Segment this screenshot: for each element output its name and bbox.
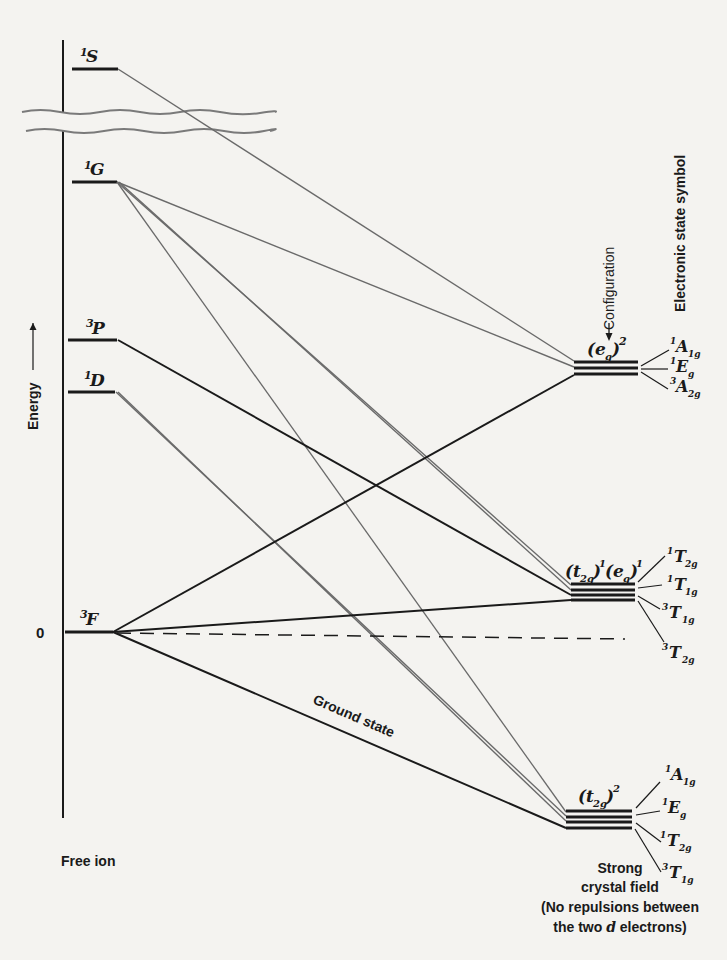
svg-text:P: P (91, 318, 106, 338)
svg-text:1: 1 (636, 558, 643, 569)
svg-text:A: A (674, 337, 688, 356)
state-3T1g: 3T1g (662, 862, 694, 885)
svg-text:1g: 1g (685, 587, 698, 597)
svg-text:1: 1 (667, 574, 673, 584)
state-1T2g: 1T2g (667, 546, 698, 569)
term-3P: 3 P (68, 317, 117, 340)
svg-text:(t: (t (565, 561, 581, 581)
svg-text:2g: 2g (687, 389, 701, 399)
axis-break-wavy-lines (22, 110, 276, 133)
svg-text:g: g (623, 573, 630, 584)
svg-text:2g: 2g (678, 843, 692, 853)
svg-text:crystal field: crystal field (581, 879, 659, 895)
free-ion-label: Free ion (61, 853, 115, 869)
svg-text:T: T (669, 643, 682, 662)
svg-text:g: g (680, 810, 686, 820)
svg-text:the two d electrons): the two d electrons) (553, 919, 687, 935)
state-1T2g: 1T2g (660, 830, 692, 853)
svg-text:2: 2 (618, 335, 627, 348)
term-1D: 1 D (68, 369, 115, 392)
term-1G: 1 G (72, 159, 117, 182)
svg-text:2g: 2g (684, 559, 698, 569)
term-1S: 1 S (72, 46, 118, 69)
svg-text:(e: (e (587, 339, 606, 359)
svg-text:2g: 2g (681, 655, 695, 665)
state-3T2g: 3T2g (662, 642, 695, 665)
svg-text:A: A (669, 765, 683, 784)
svg-text:2g: 2g (592, 798, 607, 809)
state-1Eg: 1Eg (662, 797, 686, 820)
correlation-diagram: Energy 0 1 S 1 G 3 P 1 D 3 F (0, 0, 727, 960)
svg-text:2g: 2g (579, 573, 594, 584)
config-t2g1-eg1: (t 2g ) 1 (e g ) 1 1T2g 1T1g 3T1g 3T2g (565, 546, 698, 665)
svg-text:E: E (675, 357, 689, 376)
svg-text:1g: 1g (688, 349, 701, 359)
svg-text:T: T (669, 603, 682, 622)
svg-text:2: 2 (612, 783, 620, 794)
svg-text:1: 1 (667, 546, 673, 556)
svg-text:A: A (674, 377, 688, 396)
term-3F: 3 F (65, 608, 113, 632)
zero-label: 0 (36, 624, 44, 641)
svg-text:G: G (90, 159, 105, 179)
svg-text:Strong: Strong (597, 860, 642, 876)
svg-text:Configuration: Configuration (601, 247, 617, 330)
svg-text:(e: (e (605, 561, 624, 581)
svg-text:1g: 1g (682, 615, 695, 625)
svg-text:Energy: Energy (25, 382, 41, 430)
svg-text:3: 3 (662, 642, 668, 652)
state-3T1g: 3T1g (662, 602, 695, 625)
configuration-label: Configuration (601, 247, 617, 341)
state-1T1g: 1T1g (667, 574, 698, 597)
svg-text:g: g (605, 351, 612, 362)
config-eg2: (e g ) 2 1A1g 1Eg 3A2g (574, 335, 701, 399)
ground-state-label: Ground state (311, 691, 398, 740)
svg-text:D: D (89, 370, 105, 390)
svg-text:1: 1 (660, 830, 666, 840)
electronic-state-symbol-label: Electronic state symbol (672, 155, 688, 312)
energy-axis-label: Energy (25, 323, 41, 430)
svg-text:E: E (667, 798, 681, 817)
svg-text:(No repulsions between: (No repulsions between (541, 899, 699, 915)
svg-text:1g: 1g (681, 875, 694, 885)
free-ion-terms: 1 S 1 G 3 P 1 D 3 F (65, 46, 118, 632)
svg-text:3: 3 (662, 602, 668, 612)
svg-text:3: 3 (662, 862, 668, 872)
svg-text:1g: 1g (683, 777, 696, 787)
svg-text:F: F (85, 609, 100, 629)
svg-text:g: g (688, 369, 694, 379)
svg-text:S: S (86, 46, 98, 66)
svg-text:(t: (t (578, 786, 594, 806)
state-1A1g: 1A1g (665, 764, 696, 787)
state-3A2g: 3A2g (670, 376, 701, 399)
